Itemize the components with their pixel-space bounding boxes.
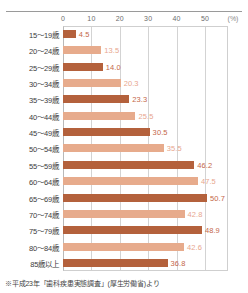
category-label: 75～79歳: [29, 225, 59, 236]
bar: [63, 128, 150, 136]
chart-row: 35～39歳23.3: [0, 91, 248, 107]
value-label: 46.2: [197, 160, 212, 169]
x-tick-label: 50: [201, 15, 209, 22]
category-label: 40～44歳: [29, 110, 59, 121]
chart-row: 45～49歳30.5: [0, 124, 248, 140]
value-label: 13.5: [104, 46, 119, 55]
source-footnote: ※平成23年「歯科疾患実態調査」(厚生労働省)より: [5, 278, 159, 288]
x-axis-tick-labels: 01020304050(%): [0, 15, 248, 26]
bar: [63, 30, 76, 38]
value-label: 14.0: [106, 62, 121, 71]
category-label: 60～64歳: [29, 176, 59, 187]
value-label: 30.5: [153, 128, 168, 137]
bar: [63, 194, 207, 202]
bar: [63, 210, 185, 218]
chart-row: 40～44歳25.5: [0, 108, 248, 124]
chart-row: 85歳以上36.8: [0, 255, 248, 271]
x-tick-label: 10: [87, 15, 95, 22]
value-label: 42.8: [188, 209, 203, 218]
value-label: 20.3: [124, 79, 139, 88]
x-tick-label: 0: [61, 15, 65, 22]
chart-row: 30～34歳20.3: [0, 75, 248, 91]
chart-row: 80～84歳42.6: [0, 239, 248, 255]
chart-row: 65～69歳50.7: [0, 190, 248, 206]
top-divider-rule: [6, 11, 242, 12]
value-label: 42.6: [187, 242, 202, 251]
category-label: 45～49歳: [29, 127, 59, 138]
x-tick-label: 20: [116, 15, 124, 22]
chart-row: 15～19歳4.5: [0, 26, 248, 42]
category-label: 50～54歳: [29, 143, 59, 154]
bar: [63, 144, 164, 152]
chart-row: 20～24歳13.5: [0, 42, 248, 58]
bar: [63, 95, 129, 103]
value-label: 25.5: [138, 111, 153, 120]
bar: [63, 63, 103, 71]
value-label: 4.5: [79, 30, 90, 39]
x-tick-label: 40: [173, 15, 181, 22]
bar: [63, 243, 184, 251]
category-label: 55～59歳: [29, 159, 59, 170]
chart-row: 55～59歳46.2: [0, 157, 248, 173]
category-label: 80～84歳: [29, 241, 59, 252]
value-label: 23.3: [132, 95, 147, 104]
bar-rows: 15～19歳4.520～24歳13.525～29歳14.030～34歳20.33…: [0, 26, 248, 271]
value-label: 35.5: [167, 144, 182, 153]
category-label: 35～39歳: [29, 94, 59, 105]
bar: [63, 112, 135, 120]
category-label: 70～74歳: [29, 208, 59, 219]
value-label: 36.8: [171, 258, 186, 267]
chart-row: 25～29歳14.0: [0, 59, 248, 75]
bar-chart-figure: 01020304050(%) 15～19歳4.520～24歳13.525～29歳…: [0, 0, 248, 293]
x-axis-unit-label: (%): [228, 15, 239, 22]
x-tick-label: 30: [144, 15, 152, 22]
category-label: 20～24歳: [29, 45, 59, 56]
chart-row: 50～54歳35.5: [0, 140, 248, 156]
value-label: 50.7: [210, 193, 225, 202]
bar: [63, 79, 121, 87]
value-label: 47.5: [201, 177, 216, 186]
chart-row: 75～79歳48.9: [0, 222, 248, 238]
bar: [63, 161, 194, 169]
bar: [63, 226, 202, 234]
value-label: 48.9: [205, 226, 220, 235]
category-label: 85歳以上: [30, 257, 59, 268]
bar: [63, 177, 198, 185]
bar: [63, 259, 168, 267]
chart-row: 60～64歳47.5: [0, 173, 248, 189]
chart-row: 70～74歳42.8: [0, 206, 248, 222]
category-label: 30～34歳: [29, 78, 59, 89]
category-label: 65～69歳: [29, 192, 59, 203]
category-label: 15～19歳: [29, 29, 59, 40]
bar: [63, 46, 101, 54]
category-label: 25～29歳: [29, 61, 59, 72]
